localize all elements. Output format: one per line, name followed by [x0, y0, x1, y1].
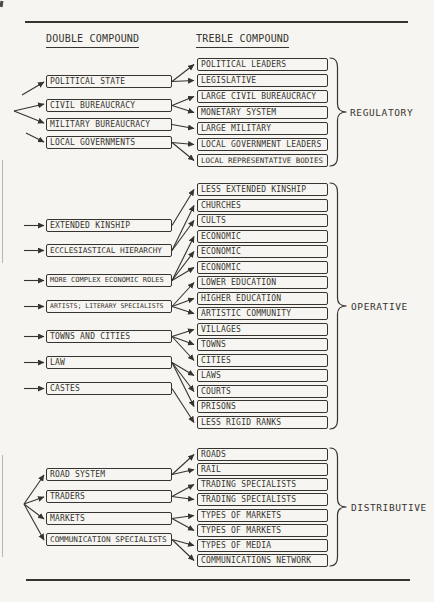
node-communication-specialists: COMMUNICATION SPECIALISTS: [46, 533, 172, 546]
node-label: CULTS: [201, 217, 226, 225]
connector-arrow: [172, 143, 194, 145]
connector-arrow: [172, 97, 194, 106]
connector-arrow: [172, 485, 194, 497]
node-label: TRADERS: [50, 493, 85, 501]
node-label: CASTES: [50, 385, 80, 393]
node-label: MARKETS: [50, 515, 85, 523]
node-label: PRISONS: [201, 403, 236, 411]
connector-arrow: [172, 190, 194, 226]
grouping-brace: [330, 448, 347, 566]
node-label: CITIES: [201, 357, 231, 365]
node-label: LESS RIGID RANKS: [201, 419, 281, 427]
connector-arrow: [172, 106, 194, 113]
node-label: COURTS: [201, 388, 231, 396]
node-label: ECONOMIC: [201, 248, 241, 256]
node-label: TRADING SPECIALISTS: [201, 496, 296, 504]
node-label: LOCAL GOVERNMENTS: [50, 139, 135, 147]
node-villages: VILLAGES: [197, 323, 328, 336]
node-trading-specialists-2: TRADING SPECIALISTS: [197, 493, 328, 506]
connector-arrow: [172, 363, 194, 392]
node-political-leaders: POLITICAL LEADERS: [197, 58, 328, 71]
node-civil-bureaucracy: CIVIL BUREAUCRACY: [46, 99, 172, 112]
connector-arrow: [172, 516, 194, 519]
node-label: MONETARY SYSTEM: [201, 109, 276, 117]
node-label: TYPES OF MARKETS: [201, 512, 281, 520]
node-local-governments: LOCAL GOVERNMENTS: [46, 136, 172, 149]
node-label: TOWNS AND CITIES: [50, 333, 130, 341]
node-communications-network: COMMUNICATIONS NETWORK: [197, 554, 328, 567]
node-types-of-media: TYPES OF MEDIA: [197, 539, 328, 552]
node-legislative: LEGISLATIVE: [197, 74, 328, 87]
connector-arrow: [26, 133, 44, 142]
node-towns-and-cities: TOWNS AND CITIES: [46, 330, 172, 343]
connector-arrow: [14, 104, 44, 111]
node-lower-education: LOWER EDUCATION: [197, 276, 328, 289]
node-large-civil-bureaucracy: LARGE CIVIL BUREAUCRACY: [197, 90, 328, 103]
node-large-military: LARGE MILITARY: [197, 122, 328, 135]
node-economic-3: ECONOMIC: [197, 261, 328, 274]
node-label: POLITICAL STATE: [50, 78, 125, 86]
node-towns: TOWNS: [197, 338, 328, 351]
node-label: LOCAL REPRESENTATIVE BODIES: [201, 157, 323, 165]
node-higher-education: HIGHER EDUCATION: [197, 292, 328, 305]
node-cities: CITIES: [197, 354, 328, 367]
connector-arrow: [172, 307, 194, 314]
scanned-diagram-page: DOUBLE COMPOUND TREBLE COMPOUND REGULATO…: [0, 0, 434, 602]
node-label: LARGE CIVIL BUREAUCRACY: [201, 93, 316, 101]
node-laws: LAWS: [197, 369, 328, 382]
node-churches: CHURCHES: [197, 199, 328, 212]
node-artists-literary-specialists: ARTISTS; LITERARY SPECIALISTS: [46, 300, 172, 313]
node-label: HIGHER EDUCATION: [201, 295, 281, 303]
node-ecclesiastical-hierarchy: ECCLESIASTICAL HIERARCHY: [46, 244, 172, 257]
node-road-system: ROAD SYSTEM: [46, 468, 172, 481]
node-label: LARGE MILITARY: [201, 125, 271, 133]
node-label: LAW: [50, 359, 65, 367]
connector-arrow: [172, 519, 194, 531]
connector-arrow: [172, 65, 194, 82]
node-monetary-system: MONETARY SYSTEM: [197, 106, 328, 119]
node-label: ECONOMIC: [201, 233, 241, 241]
node-label: LESS EXTENDED KINSHIP: [201, 186, 306, 194]
node-rail: RAIL: [197, 463, 328, 476]
node-economic-2: ECONOMIC: [197, 245, 328, 258]
node-roads: ROADS: [197, 448, 328, 461]
connector-arrow: [24, 504, 44, 540]
node-traders: TRADERS: [46, 490, 172, 503]
node-label: TYPES OF MARKETS: [201, 527, 281, 535]
node-label: TRADING SPECIALISTS: [201, 481, 296, 489]
node-law: LAW: [46, 356, 172, 369]
connector-arrow: [172, 221, 194, 251]
section-label-operative: OPERATIVE: [351, 301, 408, 312]
node-label: EXTENDED KINSHIP: [50, 222, 130, 230]
node-types-of-markets-2: TYPES OF MARKETS: [197, 524, 328, 537]
node-label: MORE COMPLEX ECONOMIC ROLES: [50, 277, 164, 284]
node-castes: CASTES: [46, 382, 172, 395]
node-label: VILLAGES: [201, 326, 241, 334]
node-label: CIVIL BUREAUCRACY: [50, 102, 135, 110]
node-label: ROAD SYSTEM: [50, 471, 105, 479]
connector-arrow: [172, 497, 194, 500]
section-label-distributive: DISTRIBUTIVE: [351, 502, 427, 513]
connector-arrow: [172, 143, 194, 161]
node-label: RAIL: [201, 466, 221, 474]
connector-arrow: [172, 330, 194, 337]
node-local-representative-bodies: LOCAL REPRESENTATIVE BODIES: [197, 154, 328, 167]
connector-arrow: [24, 475, 44, 504]
node-types-of-markets: TYPES OF MARKETS: [197, 509, 328, 522]
connector-arrow: [14, 111, 44, 123]
node-label: LOCAL GOVERNMENT LEADERS: [201, 141, 321, 149]
node-more-complex-economic-roles: MORE COMPLEX ECONOMIC ROLES: [46, 274, 172, 287]
node-label: POLITICAL LEADERS: [201, 61, 286, 69]
connector-arrow: [172, 125, 194, 129]
node-label: TYPES OF MEDIA: [201, 542, 271, 550]
connector-arrow: [172, 252, 194, 281]
node-label: CHURCHES: [201, 202, 241, 210]
node-extended-kinship: EXTENDED KINSHIP: [46, 219, 172, 232]
node-cults: CULTS: [197, 214, 328, 227]
connector-arrow: [24, 504, 44, 519]
grouping-brace: [330, 58, 347, 166]
node-label: COMMUNICATION SPECIALISTS: [50, 536, 167, 544]
node-courts: COURTS: [197, 385, 328, 398]
section-braces: [330, 58, 347, 566]
connector-arrow: [172, 389, 194, 423]
